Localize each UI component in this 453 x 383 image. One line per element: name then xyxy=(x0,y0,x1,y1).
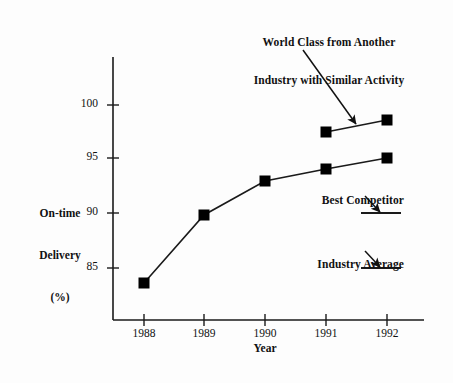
series-world-class-line xyxy=(326,120,387,132)
world-class-annotation-line2: Industry with Similar Activity xyxy=(224,74,434,87)
y-tick-label-85: 85 xyxy=(64,260,98,273)
x-tick-label-1991: 1991 xyxy=(304,327,348,340)
x-tick-label-1989: 1989 xyxy=(182,327,226,340)
y-tick-label-95: 95 xyxy=(64,150,98,163)
world-class-point-1991 xyxy=(321,127,332,138)
data-point-1991 xyxy=(321,164,332,175)
y-axis-title-line3: (%) xyxy=(18,290,102,304)
industry-average-label: Industry Average xyxy=(268,258,404,271)
x-tick-label-1990: 1990 xyxy=(243,327,287,340)
x-tick-label-1992: 1992 xyxy=(365,327,409,340)
data-point-1988 xyxy=(139,278,150,289)
world-class-point-1992 xyxy=(382,115,393,126)
data-point-1989 xyxy=(199,210,210,221)
chart-container: World Class from Another Industry with S… xyxy=(0,0,453,383)
y-tick-label-90: 90 xyxy=(64,205,98,218)
x-axis-title: Year xyxy=(225,342,305,355)
world-class-annotation-line1: World Class from Another xyxy=(224,36,434,49)
data-point-1992 xyxy=(382,153,393,164)
y-axis-title: On-time Delivery (%) xyxy=(18,178,102,332)
best-competitor-label: Best Competitor xyxy=(276,194,404,207)
data-point-1990 xyxy=(260,176,271,187)
world-class-annotation-text: World Class from Another Industry with S… xyxy=(224,10,434,113)
y-tick-label-100: 100 xyxy=(64,97,98,110)
x-tick-label-1988: 1988 xyxy=(122,327,166,340)
